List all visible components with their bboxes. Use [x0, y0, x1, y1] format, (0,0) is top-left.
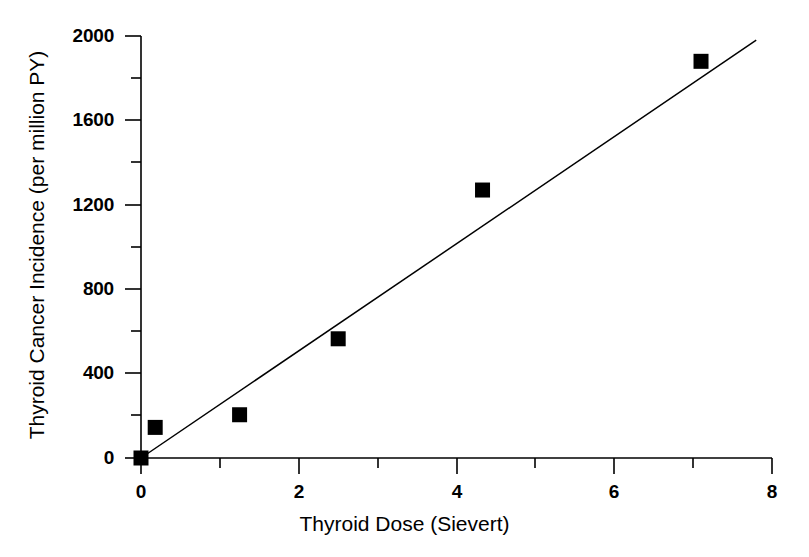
- y-axis-minor-ticks: [131, 78, 141, 415]
- y-axis-title: Thyroid Cancer Incidence (per million PY…: [25, 20, 49, 470]
- x-tick-label-2: 2: [269, 481, 329, 503]
- x-tick-label-6: 6: [584, 481, 644, 503]
- regression-trend-line: [141, 40, 756, 458]
- x-axis-title: Thyroid Dose (Sievert): [0, 512, 809, 536]
- data-point-marker: [232, 407, 247, 422]
- x-axis-major-ticks: [141, 458, 772, 474]
- data-point-marker: [475, 183, 490, 198]
- x-tick-label-4: 4: [427, 481, 487, 503]
- x-tick-label-8: 8: [742, 481, 802, 503]
- x-tick-label-0: 0: [111, 481, 171, 503]
- data-point-marker: [331, 331, 346, 346]
- data-point-marker: [134, 451, 149, 466]
- thyroid-dose-response-chart: 2000 1600 1200 800 400 0 0 2 4 6 8 Thyro…: [0, 0, 809, 557]
- data-point-marker: [148, 420, 163, 435]
- plot-area: [0, 0, 809, 557]
- data-point-marker: [694, 54, 709, 69]
